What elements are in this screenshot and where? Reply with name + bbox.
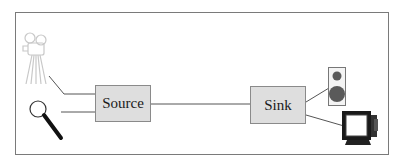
source-node: Source [95,85,151,122]
source-label: Source [102,95,144,112]
monitor-icon [341,109,381,147]
magnifying-glass-icon [28,98,66,144]
sink-label: Sink [264,97,292,114]
sink-node: Sink [250,86,306,124]
speaker-icon [328,67,347,107]
movie-camera-icon [20,32,50,86]
